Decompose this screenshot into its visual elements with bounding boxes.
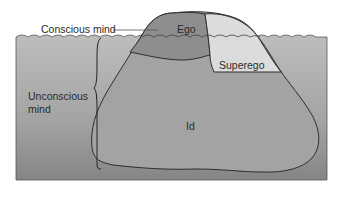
ego-region	[130, 12, 210, 60]
conscious-mind-label: Conscious mind	[41, 24, 116, 35]
unconscious-mind-label-line1: Unconscious	[28, 91, 88, 102]
ego-label: Ego	[177, 24, 196, 35]
superego-label: Superego	[219, 60, 265, 71]
id-label: Id	[186, 121, 195, 132]
unconscious-mind-label-line2: mind	[28, 104, 51, 115]
